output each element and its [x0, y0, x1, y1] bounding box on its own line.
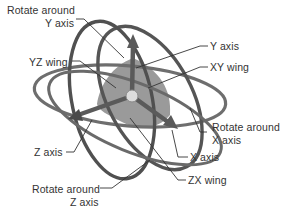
leader-x-axis [172, 130, 188, 157]
rotate-gizmo-diagram: Rotate around Y axis YZ wing Y axis XY w… [0, 0, 288, 216]
label-rotate-y-line2: Y axis [45, 17, 74, 29]
label-rotate-x-line2: X axis [212, 134, 241, 146]
label-x-axis: X axis [190, 151, 219, 163]
label-rotate-z-line2: Z axis [70, 196, 99, 208]
label-z-axis: Z axis [34, 146, 63, 158]
label-xy-wing: XY wing [210, 61, 249, 73]
label-y-axis: Y axis [210, 40, 239, 52]
center-handle [126, 90, 138, 102]
label-yz-wing: YZ wing [29, 56, 68, 68]
label-rotate-x-line1: Rotate around [212, 121, 280, 133]
label-rotate-y-line1: Rotate around [7, 4, 75, 16]
label-zx-wing: ZX wing [188, 174, 227, 186]
y-axis-shaft [132, 44, 133, 96]
label-rotate-z-line1: Rotate around [32, 183, 100, 195]
